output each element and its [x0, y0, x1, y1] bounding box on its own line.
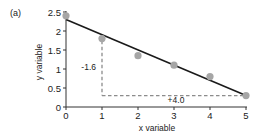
x-axis-label: x variable: [139, 123, 176, 133]
trend-line: [66, 20, 246, 96]
data-point: [98, 35, 105, 42]
run-annotation: +4.0: [168, 95, 185, 105]
x-tick-label: 3: [171, 110, 176, 121]
scatter-chart: (a) y variable x variable 00.511.522.501…: [0, 0, 263, 139]
x-tick-label: 0: [63, 110, 68, 121]
axes: 00.511.522.5012345: [48, 7, 249, 122]
rise-annotation: -1.6: [81, 62, 96, 72]
y-tick-label: 2.5: [48, 7, 61, 18]
x-tick-label: 4: [207, 110, 212, 121]
data-point: [242, 92, 249, 99]
data-point: [170, 62, 177, 69]
data-point: [62, 12, 69, 19]
x-tick-label: 2: [135, 110, 140, 121]
y-tick-label: 2: [56, 26, 61, 37]
x-tick-label: 5: [243, 110, 248, 121]
y-axis-label: y variable: [34, 44, 44, 81]
panel-label: (a): [10, 8, 21, 18]
y-tick-label: 1: [56, 64, 61, 75]
data-point: [134, 52, 141, 59]
y-tick-label: 1.5: [48, 45, 61, 56]
y-tick-label: 0.5: [48, 83, 61, 94]
regression-line: [66, 20, 246, 96]
data-points: [62, 12, 249, 99]
x-tick-label: 1: [99, 110, 104, 121]
y-tick-label: 0: [56, 102, 61, 113]
data-point: [206, 73, 213, 80]
